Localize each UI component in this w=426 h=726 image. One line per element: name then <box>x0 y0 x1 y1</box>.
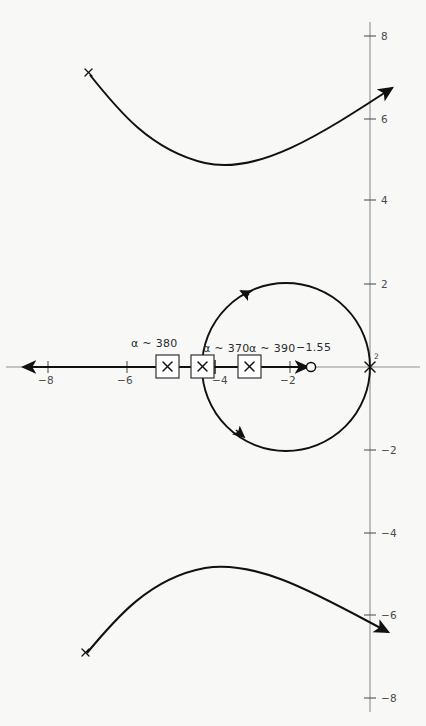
pole-marker-upper-start[interactable] <box>85 69 92 76</box>
x-tick-label--4: −4 <box>212 374 228 386</box>
zero-markers <box>306 362 315 371</box>
lower-asymptotic-branch <box>87 567 388 653</box>
pole-marker-boxed-minus4[interactable] <box>191 355 214 378</box>
x-tick-label--6: −6 <box>117 374 133 386</box>
x-tick-label--8: −8 <box>38 374 54 386</box>
upper-branch-path <box>90 75 392 165</box>
lower-branch-path <box>87 567 388 653</box>
pole-marker-boxed-minus5-75[interactable] <box>156 355 179 378</box>
y-tick-label-2: 2 <box>381 278 388 290</box>
root-locus-plot <box>0 0 426 726</box>
y-tick-label--8: −8 <box>381 692 397 704</box>
y-tick-label--4: −4 <box>381 527 397 539</box>
annotation-alpha-390: α ~ 390 <box>249 342 296 355</box>
pole-marker-boxed-minus2[interactable] <box>238 355 261 378</box>
annotation-alpha-380: α ~ 380 <box>131 337 178 350</box>
y-tick-label-8: 8 <box>381 30 388 42</box>
zero-marker-minus1-55[interactable] <box>306 362 315 371</box>
y-tick-label-4: 4 <box>381 194 388 206</box>
pole-markers <box>82 69 375 656</box>
upper-asymptotic-branch <box>90 75 392 165</box>
y-tick-label--2: −2 <box>381 444 397 456</box>
annotation-alpha-370: α ~ 370 <box>203 342 250 355</box>
annotation-origin-multiplicity: 2 <box>374 352 379 361</box>
root-figure: −8 −6 −4 −2 8 6 4 2 −2 −4 −6 −8 α ~ 380 … <box>0 0 426 726</box>
annotation-zero-value: −1.55 <box>296 341 331 354</box>
x-tick-label--2: −2 <box>280 374 296 386</box>
y-tick-label--6: −6 <box>381 609 397 621</box>
y-tick-label-6: 6 <box>381 113 388 125</box>
